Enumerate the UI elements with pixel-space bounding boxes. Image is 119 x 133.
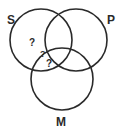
label-s: S bbox=[7, 13, 15, 27]
question-mark-s-m: ? bbox=[46, 58, 52, 69]
question-mark-s-only: ? bbox=[29, 37, 35, 48]
circle-s bbox=[10, 9, 72, 71]
label-p: P bbox=[107, 13, 115, 27]
label-m: M bbox=[56, 115, 66, 129]
circle-p bbox=[45, 9, 107, 71]
question-mark-center: ? bbox=[40, 49, 46, 59]
venn-diagram: S P M ? ? ? bbox=[0, 0, 119, 133]
